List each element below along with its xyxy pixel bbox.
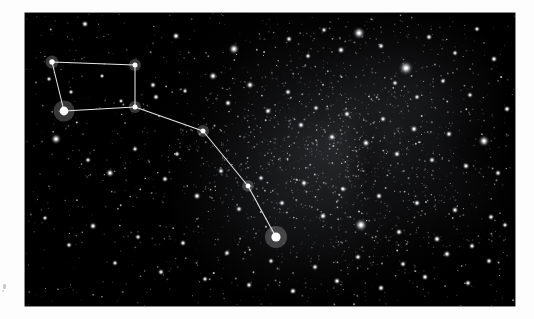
scan-artifact-speck: [3, 284, 6, 289]
constellation-line-segment: [64, 107, 135, 111]
constellation-line-segment: [52, 62, 135, 65]
constellation-star-n4: [60, 107, 69, 116]
constellation-star-n5: [201, 129, 206, 134]
constellation-star-n1: [49, 59, 54, 64]
constellation-star-n7: [271, 232, 280, 241]
constellation-line-segment: [203, 131, 248, 186]
page-root: [0, 0, 534, 319]
constellation-line-segment: [135, 107, 203, 131]
constellation-overlay: [25, 13, 515, 306]
constellation-photograph: [25, 13, 515, 306]
constellation-star-n3: [133, 105, 138, 110]
constellation-lines: [52, 62, 276, 237]
constellation-stars: [46, 56, 288, 249]
constellation-star-n2: [133, 63, 138, 68]
scan-artifact-speck-secondary: [2, 290, 4, 292]
constellation-star-n6: [246, 184, 251, 189]
